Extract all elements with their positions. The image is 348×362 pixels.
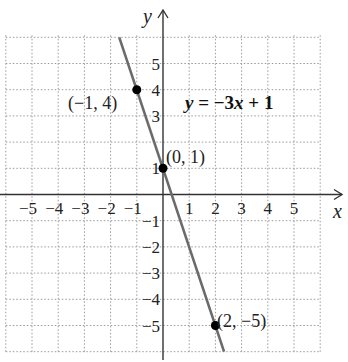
x-tick-label: 1 [185, 199, 194, 218]
x-tick-label: 4 [264, 199, 273, 218]
axes [0, 10, 342, 360]
equation-eq: = −3 [193, 92, 234, 113]
y-tick-label: −5 [142, 317, 160, 336]
point-label-0-1: (0, 1) [166, 147, 205, 168]
y-tick-label: −4 [142, 290, 161, 309]
y-axis-label: y [141, 5, 152, 28]
equation-x: x [233, 92, 244, 113]
y-tick-label: 3 [152, 107, 161, 126]
x-tick-label: 5 [290, 199, 299, 218]
y-tick-label: −2 [142, 238, 160, 257]
x-tick-label: −1 [124, 199, 142, 218]
coordinate-plane: −5−4−3−2−112345−5−4−3−2−11345 y x y = −3… [0, 0, 348, 362]
equation-y: y [183, 92, 194, 113]
x-tick-label: −3 [71, 199, 89, 218]
y-tick-label: 5 [152, 55, 161, 74]
equation-label: y = −3x + 1 [183, 92, 273, 113]
y-tick-label: −3 [142, 264, 160, 283]
x-tick-label: −5 [19, 199, 37, 218]
x-tick-label: −4 [45, 199, 64, 218]
data-point-marker [132, 85, 141, 94]
point-label-2-neg5: (2, −5) [217, 311, 266, 332]
equation-rest: + 1 [244, 92, 274, 113]
x-tick-label: 3 [237, 199, 246, 218]
x-tick-label: 2 [211, 199, 220, 218]
y-tick-label: 4 [152, 81, 161, 100]
y-tick-label: −1 [142, 212, 160, 231]
point-label-neg1-4: (−1, 4) [68, 93, 117, 114]
x-axis-label: x [332, 200, 342, 222]
x-tick-label: −2 [98, 199, 116, 218]
